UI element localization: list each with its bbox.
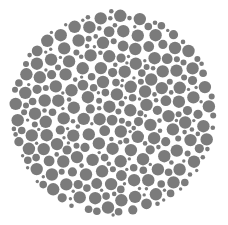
dot bbox=[170, 64, 182, 76]
dot bbox=[12, 87, 18, 93]
dot bbox=[50, 31, 53, 34]
dot bbox=[51, 138, 63, 150]
dot bbox=[161, 95, 172, 106]
dot bbox=[106, 143, 118, 155]
dot bbox=[96, 165, 108, 177]
dot bbox=[98, 51, 103, 56]
dot bbox=[132, 29, 144, 41]
dot bbox=[58, 193, 67, 202]
dot bbox=[81, 19, 84, 22]
dot bbox=[132, 131, 144, 143]
dot bbox=[12, 114, 24, 126]
dot bbox=[37, 128, 40, 131]
dot bbox=[176, 111, 182, 117]
dot bbox=[184, 134, 196, 146]
dot bbox=[26, 118, 29, 121]
dot bbox=[41, 129, 53, 141]
dot bbox=[107, 161, 112, 166]
dot bbox=[129, 43, 141, 55]
dot bbox=[55, 29, 67, 41]
dot bbox=[143, 59, 146, 62]
dot bbox=[149, 163, 152, 166]
dot bbox=[138, 69, 146, 77]
dot bbox=[205, 147, 210, 152]
dot bbox=[181, 74, 187, 80]
dot bbox=[29, 98, 37, 106]
dot bbox=[26, 166, 29, 169]
dot bbox=[95, 12, 107, 24]
dot bbox=[111, 213, 114, 216]
dot bbox=[102, 192, 110, 200]
dot bbox=[91, 178, 102, 189]
dot bbox=[127, 55, 130, 58]
dot bbox=[128, 174, 140, 186]
dot-plate bbox=[0, 0, 228, 225]
dot bbox=[23, 103, 29, 109]
dot bbox=[86, 104, 95, 113]
dot bbox=[185, 150, 191, 156]
dot bbox=[125, 61, 128, 64]
dot-group bbox=[10, 9, 217, 217]
dot bbox=[110, 166, 116, 172]
dot bbox=[93, 207, 101, 215]
dot bbox=[111, 38, 117, 44]
dot bbox=[78, 113, 90, 125]
dot bbox=[114, 155, 126, 167]
dot bbox=[144, 114, 147, 117]
dot bbox=[26, 129, 38, 141]
dot bbox=[162, 110, 174, 122]
dot bbox=[123, 138, 129, 144]
dot bbox=[153, 106, 162, 115]
dot bbox=[79, 54, 84, 59]
dot bbox=[134, 13, 146, 25]
dot bbox=[201, 133, 213, 145]
dot bbox=[45, 53, 57, 65]
dot bbox=[71, 151, 83, 163]
dot bbox=[59, 68, 71, 80]
dot bbox=[128, 205, 137, 214]
dot bbox=[156, 145, 161, 150]
dot bbox=[10, 98, 22, 110]
dot bbox=[130, 164, 138, 172]
dot bbox=[13, 132, 18, 137]
dot bbox=[97, 106, 102, 111]
dot bbox=[169, 30, 178, 39]
dot bbox=[89, 192, 101, 204]
dot bbox=[174, 56, 180, 62]
dot bbox=[67, 97, 72, 102]
dot bbox=[38, 143, 50, 155]
dot bbox=[143, 41, 154, 52]
dot bbox=[183, 106, 192, 115]
dot bbox=[97, 76, 109, 88]
dot bbox=[85, 206, 93, 214]
dot bbox=[161, 137, 170, 146]
dot bbox=[127, 16, 132, 21]
dot bbox=[61, 107, 64, 110]
dot bbox=[137, 110, 143, 116]
dot bbox=[63, 55, 75, 67]
dot bbox=[12, 127, 17, 132]
dot bbox=[93, 34, 98, 39]
dot bbox=[71, 119, 76, 124]
dot bbox=[97, 26, 102, 31]
dot bbox=[175, 119, 178, 122]
dot bbox=[156, 82, 168, 94]
dot bbox=[141, 198, 152, 209]
dot bbox=[187, 91, 199, 103]
dot bbox=[144, 119, 156, 131]
dot bbox=[173, 163, 185, 175]
dot bbox=[58, 112, 70, 124]
dot bbox=[73, 77, 78, 82]
dot bbox=[199, 70, 207, 78]
dot bbox=[15, 79, 23, 87]
dot bbox=[116, 170, 127, 181]
dot bbox=[123, 182, 126, 185]
dot bbox=[14, 137, 23, 146]
dot bbox=[46, 168, 58, 180]
dot bbox=[24, 156, 32, 164]
dot bbox=[128, 130, 131, 133]
dot bbox=[115, 109, 121, 115]
dot bbox=[181, 40, 186, 45]
dot bbox=[90, 84, 98, 92]
dot bbox=[74, 191, 86, 203]
